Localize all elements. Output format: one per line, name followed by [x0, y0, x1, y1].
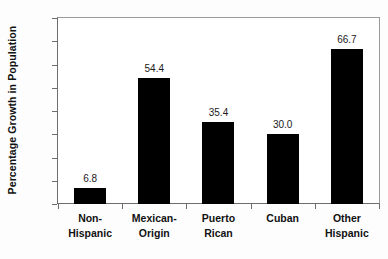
x-axis-tick-mark [122, 204, 123, 209]
x-axis-category-label: Mexican-Origin [122, 211, 186, 241]
bar-group: 35.4 [186, 18, 250, 204]
bar-value-label: 6.8 [83, 173, 97, 184]
bar-value-label: 66.7 [337, 34, 356, 45]
bar-value-label: 35.4 [209, 107, 228, 118]
y-axis-tick-mark [52, 204, 57, 205]
bar-group: 6.8 [58, 18, 122, 204]
bar [138, 78, 170, 204]
x-axis-category-label-line: Puerto [186, 211, 250, 226]
bar-group: 54.4 [122, 18, 186, 204]
bars-container: 6.854.435.430.066.7 [58, 18, 379, 204]
x-axis-category-label-line: Other [315, 211, 379, 226]
bar-value-label: 30.0 [273, 119, 292, 130]
x-axis-tick-mark [315, 204, 316, 209]
x-axis-category-label-line: Cuban [251, 211, 315, 226]
bar [202, 122, 234, 204]
x-axis-tick-mark [58, 204, 59, 209]
x-axis-category-label-line: Rican [186, 226, 250, 241]
bar [74, 188, 106, 204]
x-axis-category-label: OtherHispanic [315, 211, 379, 241]
x-axis-category-label-line: Mexican- [122, 211, 186, 226]
bar-group: 66.7 [315, 18, 379, 204]
bar-group: 30.0 [251, 18, 315, 204]
x-axis-category-label-line: Non- [58, 211, 122, 226]
x-axis-category-label: PuertoRican [186, 211, 250, 241]
bar [267, 134, 299, 204]
x-axis-category-labels: Non-HispanicMexican-OriginPuertoRicanCub… [58, 211, 379, 255]
x-axis-category-label: Non-Hispanic [58, 211, 122, 241]
bar-value-label: 54.4 [145, 63, 164, 74]
bar [331, 49, 363, 204]
x-axis-category-label-line: Hispanic [58, 226, 122, 241]
x-axis-tick-mark [251, 204, 252, 209]
x-axis-category-label-line: Origin [122, 226, 186, 241]
x-axis-category-label-line: Hispanic [315, 226, 379, 241]
bar-chart: Percentage Growth in Population 01020304… [0, 0, 388, 259]
x-axis-category-label: Cuban [251, 211, 315, 226]
x-axis-tick-mark [379, 204, 380, 209]
x-axis-tick-mark [186, 204, 187, 209]
